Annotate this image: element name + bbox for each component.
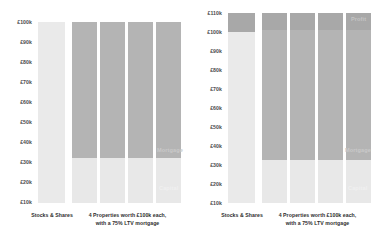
- annotation-capital: Capital: [159, 185, 178, 191]
- annotation-mortgage: Mortgage: [157, 147, 183, 153]
- bar-stocks-shares[interactable]: [228, 13, 255, 203]
- bar-property-1[interactable]: [72, 22, 97, 203]
- bar-property-3[interactable]: [318, 13, 343, 203]
- segment-capital: [290, 160, 315, 203]
- bar-property-1[interactable]: [262, 13, 287, 203]
- segment-capital: [228, 32, 255, 203]
- bar-property-3[interactable]: [128, 22, 153, 203]
- caption-properties-line2: with a 75% LTV mortgage: [251, 219, 377, 227]
- segment-capital: [128, 158, 153, 203]
- bar-property-2[interactable]: [100, 22, 125, 203]
- annotation-mortgage: Mortgage: [345, 147, 371, 153]
- segment-mortgage: [318, 30, 343, 160]
- caption-properties: 4 Properties worth £100k each, with a 75…: [61, 211, 194, 227]
- segment-capital: [318, 160, 343, 203]
- bar-property-4[interactable]: [156, 22, 181, 203]
- segment-mortgage: [346, 30, 371, 160]
- bar-property-4[interactable]: [346, 13, 371, 203]
- annotation-profit: Profit: [351, 16, 366, 22]
- caption-properties: 4 Properties worth £100k each, with a 75…: [251, 211, 377, 227]
- segment-profit: [318, 13, 343, 30]
- segment-mortgage: [100, 22, 125, 158]
- segment-mortgage: [262, 30, 287, 160]
- right-chart-panel: £110k £100k £90k £80k £70k £60k £50k £40…: [190, 0, 377, 248]
- segment-mortgage: [128, 22, 153, 158]
- annotation-capital: Capital: [348, 185, 367, 191]
- caption-properties-line1: 4 Properties worth £100k each,: [251, 211, 377, 219]
- segment-capital: [72, 158, 97, 203]
- left-chart-panel: £100k £90k £80k £70k £60k £50k £40k £30k…: [0, 0, 190, 248]
- bar-stocks-shares[interactable]: [38, 22, 65, 203]
- segment-mortgage: [72, 22, 97, 158]
- segment-capital: [156, 158, 181, 203]
- segment-mortgage: [156, 22, 181, 158]
- bar-property-2[interactable]: [290, 13, 315, 203]
- segment-capital: [100, 158, 125, 203]
- segment-profit: [228, 13, 255, 32]
- caption-properties-line2: with a 75% LTV mortgage: [61, 219, 194, 227]
- segment-profit: [290, 13, 315, 30]
- dual-bar-chart-figure: £100k £90k £80k £70k £60k £50k £40k £30k…: [0, 0, 377, 248]
- segment-capital: [262, 160, 287, 203]
- segment-capital: [38, 22, 65, 203]
- segment-capital: [346, 160, 371, 203]
- caption-properties-line1: 4 Properties worth £100k each,: [61, 211, 194, 219]
- segment-profit: [262, 13, 287, 30]
- segment-mortgage: [290, 30, 315, 160]
